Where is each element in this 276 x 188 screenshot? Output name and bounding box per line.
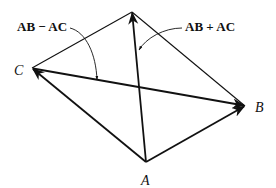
vertex-label-b: B	[255, 100, 264, 115]
leader-diff	[70, 28, 97, 80]
vector-ac	[33, 69, 146, 162]
label-ab-plus-ac: AB + AC	[185, 19, 235, 34]
vector-diagram: AB − AC AB + AC C B A	[0, 0, 276, 188]
vertex-label-a: A	[140, 173, 150, 188]
label-ab-minus-ac: AB − AC	[17, 19, 67, 34]
vector-ab	[146, 107, 244, 163]
leader-sum	[139, 28, 182, 50]
vertex-label-c: C	[14, 63, 24, 78]
